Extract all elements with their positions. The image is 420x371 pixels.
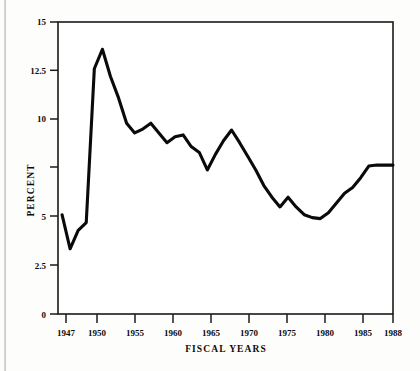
x-tick-label-1985: 1985: [354, 328, 373, 338]
x-tick-label-1980: 1980: [316, 328, 335, 338]
x-tick-label-1947: 1947: [57, 328, 76, 338]
y-tick-label-2-5: 2.5: [35, 261, 47, 271]
y-axis-title: PERCENT: [26, 163, 36, 216]
x-axis-ticks: [66, 314, 393, 323]
x-tick-label-1970: 1970: [240, 328, 259, 338]
x-axis-title: FISCAL YEARS: [185, 344, 267, 354]
x-tick-label-1965: 1965: [202, 328, 221, 338]
y-tick-label-10: 10: [37, 114, 47, 124]
x-tick-label-1988: 1988: [384, 328, 403, 338]
y-tick-label-5: 5: [42, 212, 47, 222]
x-tick-label-1960: 1960: [164, 328, 183, 338]
x-tick-label-1975: 1975: [278, 328, 297, 338]
y-tick-label-12-5: 12.5: [30, 66, 46, 76]
x-tick-label-1955: 1955: [126, 328, 145, 338]
y-axis-ticks: [50, 22, 58, 314]
figure-container: 15 12.5 10 5 2.5 0 PERCENT 1947 1950 195: [0, 0, 420, 371]
x-tick-label-1950: 1950: [88, 328, 107, 338]
x-axis-tick-labels: 1947 1950 1955 1960 1965 1970 1975 1980 …: [57, 328, 403, 338]
y-tick-label-15: 15: [37, 17, 47, 27]
line-chart: 15 12.5 10 5 2.5 0 PERCENT 1947 1950 195: [0, 0, 420, 371]
y-tick-label-0: 0: [42, 310, 47, 320]
